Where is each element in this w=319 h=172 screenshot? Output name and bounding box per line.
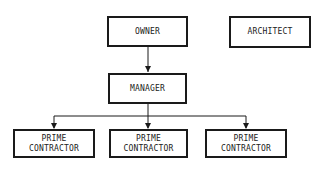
owner-node: OWNER xyxy=(107,16,188,47)
contractor-right-line2: CONTRACTOR xyxy=(221,144,271,154)
prime-contractor-center-node: PRIME CONTRACTOR xyxy=(109,129,188,158)
manager-label: MANAGER xyxy=(130,84,165,94)
manager-node: MANAGER xyxy=(108,73,187,104)
owner-label: OWNER xyxy=(135,27,160,37)
contractor-right-line1: PRIME xyxy=(233,134,258,144)
contractor-left-line1: PRIME xyxy=(41,134,66,144)
prime-contractor-left-node: PRIME CONTRACTOR xyxy=(13,129,95,158)
contractor-left-line2: CONTRACTOR xyxy=(29,144,79,154)
architect-node: ARCHITECT xyxy=(229,16,311,48)
architect-label: ARCHITECT xyxy=(247,27,292,37)
prime-contractor-right-node: PRIME CONTRACTOR xyxy=(205,129,287,158)
contractor-center-line1: PRIME xyxy=(136,134,161,144)
contractor-center-line2: CONTRACTOR xyxy=(123,144,173,154)
